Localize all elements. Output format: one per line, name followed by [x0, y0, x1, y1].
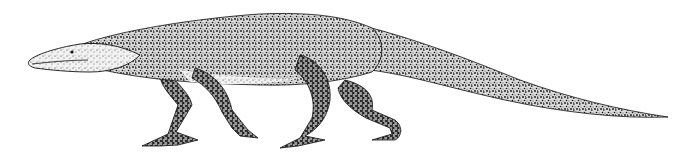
- tail: [360, 25, 668, 117]
- illustration-canvas: [0, 0, 698, 162]
- eye: [70, 50, 73, 53]
- hind-far-leg: [338, 80, 401, 140]
- reptile-illustration: [0, 0, 698, 162]
